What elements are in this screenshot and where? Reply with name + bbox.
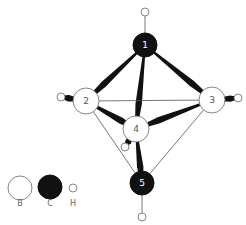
carbon-atom-5: 5	[130, 171, 154, 195]
hydrogen-circle-icon	[57, 93, 65, 101]
molecule-diagram: 12345 BCH	[0, 0, 246, 225]
hydrogen-swatch-icon	[69, 184, 77, 192]
hydrogen-atom	[121, 143, 129, 151]
legend-item-hydrogen: H	[69, 184, 77, 208]
atom-label: 1	[142, 40, 148, 50]
diagram-canvas: 12345 BCH	[0, 0, 246, 225]
legend-label: B	[17, 199, 23, 208]
atom-label: 5	[139, 178, 145, 188]
hydrogen-atom	[57, 93, 65, 101]
legend-label: H	[70, 199, 76, 208]
boron-atom-4: 4	[123, 116, 149, 142]
hydrogen-circle-icon	[138, 213, 146, 221]
hydrogen-circle-icon	[141, 8, 149, 16]
atom-label: 3	[209, 95, 215, 105]
legend-item-boron: B	[8, 176, 32, 208]
bond-2-3	[86, 100, 212, 101]
legend-item-carbon: C	[38, 175, 62, 208]
atom-label: 4	[133, 124, 139, 134]
atoms-layer: 12345	[57, 8, 242, 221]
legend-label: C	[47, 199, 53, 208]
hydrogen-circle-icon	[121, 143, 129, 151]
carbon-atom-1: 1	[133, 33, 157, 57]
hydrogen-circle-icon	[234, 94, 242, 102]
boron-atom-3: 3	[199, 87, 225, 113]
boron-atom-2: 2	[73, 88, 99, 114]
hydrogen-atom	[234, 94, 242, 102]
hydrogen-atom	[141, 8, 149, 16]
atom-label: 2	[83, 96, 89, 106]
legend: BCH	[8, 175, 77, 208]
carbon-swatch-icon	[38, 175, 62, 199]
boron-swatch-icon	[8, 176, 32, 200]
hydrogen-atom	[138, 213, 146, 221]
